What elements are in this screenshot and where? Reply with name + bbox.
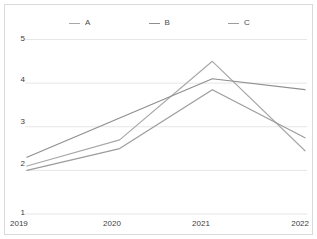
y-tick-label-5: 5	[11, 35, 25, 43]
series-lines	[27, 61, 305, 170]
y-tick-label-2: 2	[11, 160, 25, 168]
chart-screenshot: A B C 5 4 3 2 1 2019 2020	[0, 0, 317, 239]
x-tick-label-2021: 2021	[184, 220, 218, 228]
y-tick-label-3: 3	[11, 118, 25, 126]
x-tick-label-2019: 2019	[10, 220, 44, 228]
y-tick-label-4: 4	[11, 76, 25, 84]
x-tick-label-2022: 2022	[275, 220, 309, 228]
series-line-a[interactable]	[27, 61, 305, 166]
series-line-b[interactable]	[27, 79, 305, 158]
plot-area: 5 4 3 2 1 2019 2020 2021 2022	[5, 5, 314, 236]
chart-frame: A B C 5 4 3 2 1 2019 2020	[4, 4, 313, 235]
series-line-c[interactable]	[27, 90, 305, 171]
y-tick-label-1: 1	[11, 209, 25, 217]
x-tick-label-2020: 2020	[95, 220, 129, 228]
line-chart-svg	[5, 5, 314, 236]
gridlines	[25, 40, 307, 215]
